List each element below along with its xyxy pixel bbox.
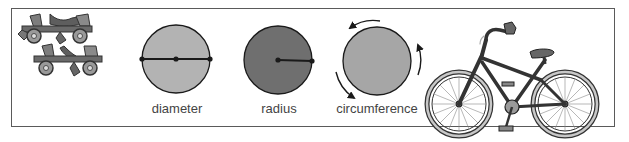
radius-label: radius: [261, 101, 296, 116]
circumference-diagram: [336, 20, 421, 98]
circumference-label: circumference: [336, 101, 418, 116]
radius-diagram: [244, 26, 315, 94]
roller-skates-illustration: [18, 14, 102, 76]
radius-line: [278, 60, 312, 61]
bicycle-pedal: [499, 126, 513, 131]
roller-skate-top: [18, 14, 92, 44]
bicycle-pedal-upper: [502, 82, 514, 86]
diameter-endpoint-right: [207, 56, 212, 61]
diameter-label: diameter: [152, 101, 203, 116]
bicycle-seat: [530, 49, 554, 58]
diameter-endpoint-left: [139, 56, 144, 61]
bicycle-illustration: [427, 22, 597, 136]
radius-endpoint: [309, 58, 314, 63]
radius-center-point: [275, 57, 280, 62]
bicycle-handlebar-grip: [504, 22, 516, 34]
bicycle-frame: [459, 29, 565, 107]
bicycle-seat-post: [544, 57, 545, 64]
diameter-diagram: [139, 25, 212, 93]
circumference-circle: [343, 27, 411, 95]
figure-art: [0, 0, 629, 142]
circumference-arrow-right-icon: [418, 45, 421, 75]
diameter-center-point: [173, 56, 178, 61]
roller-skate-bottom: [34, 44, 102, 76]
